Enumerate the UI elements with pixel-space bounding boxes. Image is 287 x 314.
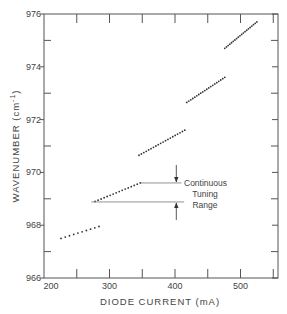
data-point xyxy=(77,232,79,234)
y-tick-label: 972 xyxy=(26,115,41,125)
data-point xyxy=(204,90,206,92)
data-point xyxy=(196,95,198,97)
tuning-range-annotation: ContinuousTuningRange xyxy=(91,165,227,220)
y-tick-label: 970 xyxy=(26,167,41,177)
data-point xyxy=(127,187,129,189)
tick-labels: 200300400500966968970972974976 xyxy=(26,9,248,291)
x-tick-label: 500 xyxy=(233,281,248,291)
series-mode-2 xyxy=(94,182,141,202)
y-tick-label: 974 xyxy=(26,62,41,72)
data-point xyxy=(157,144,159,146)
data-point xyxy=(118,191,120,193)
y-tick-label: 968 xyxy=(26,220,41,230)
axis-ticks xyxy=(40,14,278,278)
data-point xyxy=(236,38,238,40)
data-point xyxy=(139,182,141,184)
data-point xyxy=(155,145,157,147)
data-point xyxy=(231,42,233,44)
data-point xyxy=(109,194,111,196)
data-point xyxy=(210,86,212,88)
plot-border xyxy=(44,14,278,278)
data-point xyxy=(124,188,126,190)
data-point xyxy=(254,22,256,24)
data-point xyxy=(192,98,194,100)
data-point xyxy=(220,79,222,81)
data-point xyxy=(234,39,236,41)
annotation-text: Range xyxy=(192,200,217,210)
data-point xyxy=(241,34,243,36)
data-point xyxy=(249,27,251,29)
data-point xyxy=(148,149,150,151)
data-point xyxy=(97,199,99,201)
data-point xyxy=(136,183,138,185)
data-point xyxy=(150,148,152,150)
data-point xyxy=(212,84,214,86)
data-point xyxy=(106,196,108,198)
data-point xyxy=(237,36,239,38)
data-point xyxy=(64,236,66,238)
data-point xyxy=(81,231,83,233)
data-point xyxy=(145,150,147,152)
data-point xyxy=(121,189,123,191)
data-point xyxy=(239,35,241,37)
data-point xyxy=(248,28,250,30)
data-point xyxy=(224,76,226,78)
data-point xyxy=(153,146,155,148)
data-point xyxy=(218,80,220,82)
data-point xyxy=(162,141,164,143)
y-tick-label: 966 xyxy=(26,273,41,283)
data-point xyxy=(206,88,208,90)
data-point xyxy=(69,235,71,237)
data-point xyxy=(167,139,169,141)
data-point xyxy=(208,87,210,89)
data-point xyxy=(251,25,253,27)
data-point xyxy=(138,154,140,156)
data-point xyxy=(216,82,218,84)
data-point xyxy=(169,137,171,139)
y-tick-label: 976 xyxy=(26,9,41,19)
plot-frame xyxy=(44,14,278,278)
data-point xyxy=(172,136,174,138)
data-point xyxy=(90,228,92,230)
data-point xyxy=(244,31,246,33)
data-point xyxy=(165,140,167,142)
data-point xyxy=(227,45,229,47)
data-point xyxy=(194,96,196,98)
series-mode-1 xyxy=(60,226,100,240)
data-point xyxy=(253,24,255,26)
data-point xyxy=(140,153,142,155)
data-point xyxy=(115,192,117,194)
data-point xyxy=(177,133,179,135)
data-point xyxy=(85,230,87,232)
data-point xyxy=(133,185,135,187)
data-point xyxy=(100,198,102,200)
annotation-text: Tuning xyxy=(192,189,218,199)
annotation-text: Continuous xyxy=(184,178,227,188)
data-points xyxy=(60,21,258,239)
data-point xyxy=(103,197,105,199)
arrow-down-icon xyxy=(174,177,178,183)
data-point xyxy=(179,132,181,134)
series-mode-4 xyxy=(186,76,226,103)
data-point xyxy=(60,238,62,240)
data-point xyxy=(246,29,248,31)
data-point xyxy=(143,152,145,154)
x-tick-label: 300 xyxy=(102,281,117,291)
data-point xyxy=(186,102,188,104)
data-point xyxy=(222,78,224,80)
data-point xyxy=(130,186,132,188)
data-point xyxy=(200,92,202,94)
data-point xyxy=(98,226,100,228)
data-point xyxy=(202,91,204,93)
data-point xyxy=(226,46,228,48)
data-point xyxy=(232,40,234,42)
data-point xyxy=(184,129,186,131)
data-point xyxy=(94,227,96,229)
x-axis-title: DIODE CURRENT (mA) xyxy=(100,296,220,307)
data-point xyxy=(229,43,231,45)
data-point xyxy=(174,135,176,137)
y-axis-title: WAVENUMBER (cm-1) xyxy=(9,90,21,203)
data-point xyxy=(160,142,162,144)
x-tick-label: 400 xyxy=(167,281,182,291)
data-point xyxy=(242,32,244,34)
